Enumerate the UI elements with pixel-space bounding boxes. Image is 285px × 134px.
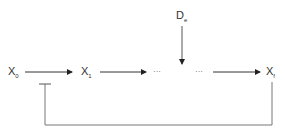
node-xf: Xf xyxy=(266,66,275,79)
ellipsis-right: ··· xyxy=(195,67,203,76)
node-de: De xyxy=(176,10,187,23)
node-x0: X0 xyxy=(8,66,19,79)
node-de-sub: e xyxy=(184,17,187,23)
node-x0-sub: 0 xyxy=(15,73,18,79)
feedback-inhibition-line xyxy=(45,82,272,125)
node-xf-sub: f xyxy=(273,73,275,79)
ellipsis-left: ··· xyxy=(153,67,161,76)
node-x1: X1 xyxy=(81,66,92,79)
diagram-canvas xyxy=(0,0,285,134)
node-x1-sub: 1 xyxy=(88,73,91,79)
node-de-base: D xyxy=(176,9,184,21)
